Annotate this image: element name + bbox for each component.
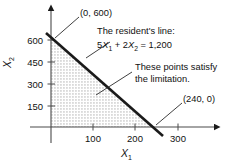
eq-equals: = [141,40,146,50]
x-tick-label-200: 200 [122,134,148,144]
eq-plus: + [115,40,120,50]
x-tick-label-300: 300 [165,134,191,144]
region-caption: These points satisfy the limitation. [135,62,217,85]
region-caption-line2: the limitation. [135,74,217,86]
x-axis-title: X1 [121,148,132,161]
y-axis-title-text: X [1,61,13,68]
leader-line-x-intercept [156,103,182,125]
point-label-y-intercept: (0, 600) [80,9,112,18]
x-axis-title-text: X [121,147,128,159]
leader-line-y-intercept [55,17,79,38]
x-tick-label-100: 100 [80,134,106,144]
y-tick-label-300: 300 [17,80,43,90]
y-tick-label-150: 150 [17,102,43,112]
constraint-line-caption-title: The resident's line: [97,26,175,38]
region-caption-line1: These points satisfy [135,62,217,74]
y-axis-title: X2 [2,57,15,68]
eq-var-x1-sub: 1 [108,44,112,51]
eq-var-x2-sub: 2 [134,44,138,51]
constraint-line-equation: 5X1 + 2X2 = 1,200 [97,40,175,53]
x-axis-title-sub: 1 [128,154,132,161]
constraint-line-caption: The resident's line: 5X1 + 2X2 = 1,200 [97,26,175,53]
eq-rhs: 1,200 [149,40,172,50]
y-tick-label-600: 600 [17,36,43,46]
linear-programming-figure: 600 450 300 150 100 200 300 X2 X1 (0, 60… [0,0,233,167]
point-label-x-intercept: (240, 0) [183,95,215,104]
y-tick-label-450: 450 [17,58,43,68]
y-axis-title-sub: 2 [8,57,15,61]
